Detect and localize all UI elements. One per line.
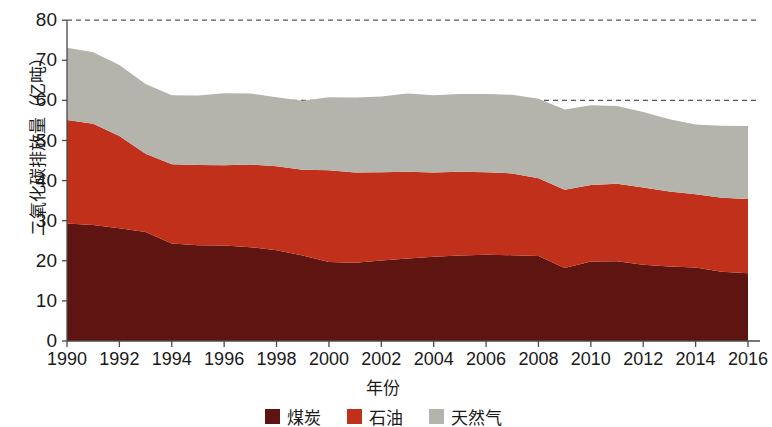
legend-label: 石油 (369, 404, 403, 427)
x-tick-label: 2012 (613, 350, 673, 368)
x-tick-label: 2004 (404, 350, 464, 368)
x-tick-label: 2014 (666, 350, 726, 368)
chart-legend: 煤炭石油天然气 (0, 404, 766, 427)
x-tick-label: 1990 (37, 350, 97, 368)
x-tick-label: 2008 (508, 350, 568, 368)
y-tick-label: 50 (13, 131, 57, 150)
x-tick-label: 2000 (299, 350, 359, 368)
legend-item: 煤炭 (265, 404, 321, 427)
x-axis-title: 年份 (0, 374, 766, 399)
legend-swatch-icon (347, 409, 362, 424)
y-tick-label: 10 (13, 291, 57, 310)
y-tick-label: 0 (13, 331, 57, 350)
x-tick-label: 2016 (718, 350, 772, 368)
x-tick-label: 1996 (194, 350, 254, 368)
y-tick-label: 40 (13, 171, 57, 190)
legend-item: 天然气 (429, 404, 502, 427)
legend-label: 煤炭 (287, 404, 321, 427)
x-tick-label: 1994 (142, 350, 202, 368)
y-tick-label: 80 (13, 10, 57, 29)
y-tick-label: 20 (13, 251, 57, 270)
x-tick-label: 2010 (561, 350, 621, 368)
x-tick-label: 2002 (351, 350, 411, 368)
legend-swatch-icon (429, 409, 444, 424)
x-tick-label: 1998 (247, 350, 307, 368)
x-tick-label: 1992 (89, 350, 149, 368)
gridlines (67, 20, 760, 100)
area-series-layer (67, 48, 748, 341)
x-tick-label: 2006 (456, 350, 516, 368)
legend-label: 天然气 (451, 404, 502, 427)
y-tick-label: 60 (13, 90, 57, 109)
y-tick-label: 30 (13, 211, 57, 230)
legend-item: 石油 (347, 404, 403, 427)
legend-swatch-icon (265, 409, 280, 424)
y-tick-label: 70 (13, 50, 57, 69)
